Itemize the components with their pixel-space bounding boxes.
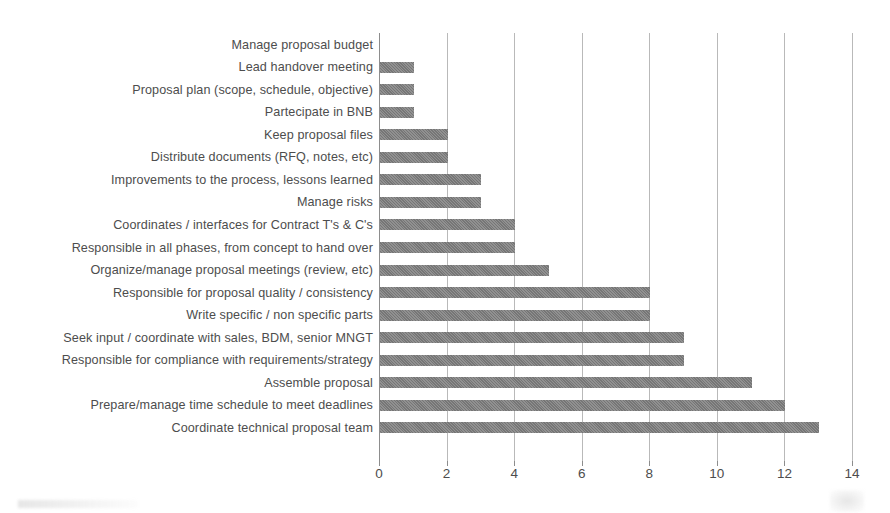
- category-label: Lead handover meeting: [239, 60, 373, 74]
- bar: [380, 152, 448, 163]
- x-tick-label: 12: [777, 466, 792, 482]
- bar: [380, 219, 515, 230]
- bar: [380, 422, 819, 433]
- category-label: Improvements to the process, lessons lea…: [111, 173, 373, 187]
- category-label: Keep proposal files: [264, 128, 373, 142]
- category-label: Assemble proposal: [264, 376, 373, 390]
- category-label: Manage proposal budget: [231, 38, 373, 52]
- plot-area: [379, 33, 852, 461]
- bar: [380, 62, 414, 73]
- category-label: Partecipate in BNB: [265, 105, 373, 119]
- category-axis-labels: Manage proposal budgetLead handover meet…: [0, 33, 373, 461]
- x-tick-label: 10: [709, 466, 724, 482]
- bar: [380, 174, 481, 185]
- category-label: Responsible for compliance with requirem…: [62, 353, 373, 367]
- category-label: Coordinate technical proposal team: [171, 421, 373, 435]
- x-tick-label: 4: [510, 466, 518, 482]
- category-label: Seek input / coordinate with sales, BDM,…: [63, 331, 373, 345]
- scan-artifact: [18, 500, 138, 508]
- bar: [380, 129, 448, 140]
- x-tick-label: 2: [443, 466, 451, 482]
- category-label: Proposal plan (scope, schedule, objectiv…: [132, 83, 373, 97]
- category-label: Distribute documents (RFQ, notes, etc): [151, 150, 373, 164]
- gridline-12: [784, 33, 785, 461]
- bar: [380, 265, 549, 276]
- x-tick-label: 0: [375, 466, 383, 482]
- x-tick-label: 8: [646, 466, 654, 482]
- gridline-14: [852, 33, 853, 461]
- scan-artifact-corner: [830, 490, 864, 512]
- category-label: Responsible in all phases, from concept …: [72, 241, 373, 255]
- category-label: Write specific / non specific parts: [186, 308, 373, 322]
- gridline-6: [582, 33, 583, 461]
- gridline-10: [717, 33, 718, 461]
- bar: [380, 107, 414, 118]
- x-tick-label: 14: [844, 466, 859, 482]
- category-label: Manage risks: [297, 195, 373, 209]
- bar: [380, 84, 414, 95]
- bar: [380, 197, 481, 208]
- x-tick-label: 6: [578, 466, 586, 482]
- bar: [380, 377, 752, 388]
- bar: [380, 310, 650, 321]
- bar: [380, 242, 515, 253]
- category-label: Coordinates / interfaces for Contract T'…: [113, 218, 373, 232]
- bar: [380, 287, 650, 298]
- bar: [380, 332, 684, 343]
- category-label: Prepare/manage time schedule to meet dea…: [90, 398, 373, 412]
- gridline-8: [649, 33, 650, 461]
- category-label: Responsible for proposal quality / consi…: [113, 286, 373, 300]
- bar-chart: Manage proposal budgetLead handover meet…: [0, 0, 890, 513]
- bar: [380, 400, 785, 411]
- bar: [380, 355, 684, 366]
- category-label: Organize/manage proposal meetings (revie…: [90, 263, 373, 277]
